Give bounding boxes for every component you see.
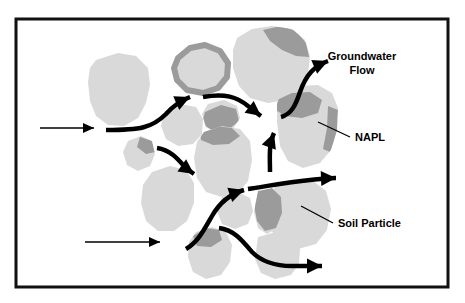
particle-center-large	[194, 126, 252, 197]
figure-container: GroundwaterFlowNAPLSoil Particle	[0, 0, 465, 303]
label-soil-particle-line1: Soil Particle	[338, 217, 401, 229]
napl-soil-diagram: GroundwaterFlowNAPLSoil Particle	[0, 0, 465, 303]
label-napl: NAPL	[355, 131, 385, 143]
label-groundwater-flow-line1: Groundwater	[328, 50, 397, 62]
label-napl-line1: NAPL	[355, 131, 385, 143]
particle-top-coated-ring	[174, 45, 228, 93]
label-soil-particle: Soil Particle	[338, 217, 401, 229]
label-groundwater-flow-line2: Flow	[349, 64, 374, 76]
